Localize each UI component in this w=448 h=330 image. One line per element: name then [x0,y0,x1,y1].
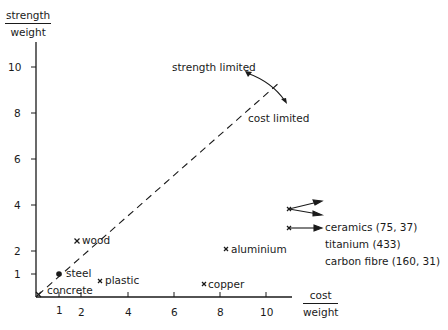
x-tick-label: 6 [171,307,178,318]
point-label-carbon-fibre: carbon fibre (160, 31) [325,256,440,267]
point-label-ceramics: ceramics (75, 37) [325,222,417,233]
y-tick-label: 8 [14,108,21,119]
arrowhead-icon [313,200,322,205]
y-tick-label: 1 [14,269,21,280]
point-label-concrete: concrete [47,285,93,296]
y-axis-label: strength weight [5,10,51,37]
limit-curve [247,73,285,101]
cross-marker-aluminium [224,247,228,251]
cross-marker-concrete [36,292,41,297]
arrowhead-icon [313,211,322,216]
off-chart-arrows [289,200,322,231]
point-label-copper: copper [208,279,244,290]
point-label-wood: wood [82,235,110,246]
x-axis-label: cost weight [303,290,338,317]
cross-marker-wood [75,239,80,244]
y-ticks [31,67,36,274]
cross-marker-copper [202,282,206,286]
x-tick-label: 1 [56,305,63,316]
arrowhead-icon [281,98,287,104]
y-tick-label: 10 [8,62,21,73]
point-label-titanium: titanium (433) [325,239,401,250]
point-label-steel: steel [66,268,91,279]
x-tick-label: 2 [78,307,85,318]
reference-line [38,82,280,295]
arrowhead-icon [314,225,322,231]
x-tick-label: 4 [125,307,132,318]
dot-marker-steel [56,271,62,277]
x-tick-label: 10 [260,307,273,318]
point-label-aluminium: aluminium [231,244,287,255]
y-tick-label: 6 [14,154,21,165]
y-tick-label: 4 [14,200,21,211]
cross-marker-plastic [98,279,102,283]
annotation-cost-limited: cost limited [248,113,309,124]
y-tick-label: 2 [14,246,21,257]
point-label-plastic: plastic [105,275,139,286]
x-tick-label: 8 [217,307,224,318]
annotation-strength-limited: strength limited [172,62,256,73]
